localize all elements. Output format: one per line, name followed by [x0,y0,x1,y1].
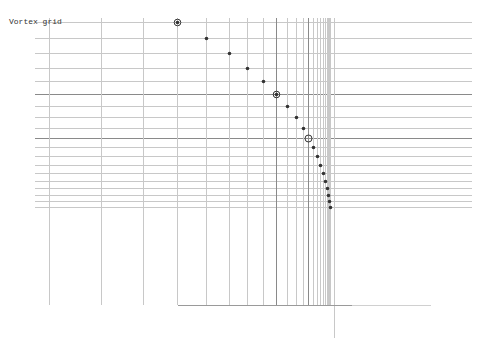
diagram-title: Vortex grid [9,17,62,26]
vortex-dot [286,105,290,109]
vortex-dot [322,172,326,176]
vortex-dot [275,93,279,97]
horizontal-grid-lines [35,23,472,208]
vortex-dot [326,187,330,191]
vortex-dot [302,127,306,131]
vortex-dot [316,155,320,159]
vortex-dot [312,146,316,150]
axes [178,18,431,338]
vortex-dot [328,200,332,204]
vortex-dot [327,194,331,198]
vortex-dot [324,180,328,184]
vortex-dot [329,206,333,210]
vortex-dot [205,37,209,41]
vertical-grid-lines [50,18,331,305]
vortex-dot [319,164,323,168]
vortex-dot [295,116,299,120]
vortex-dot [262,80,266,84]
vortex-dot [246,67,250,71]
vortex-dot [228,52,232,56]
vortex-dot [176,21,180,25]
vortex-grid-diagram [0,0,484,338]
